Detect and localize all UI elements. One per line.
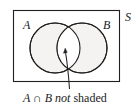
set-b-label: B	[103, 19, 110, 31]
venn-diagram-figure: A B S A ∩ B not shaded	[0, 0, 139, 111]
universal-set-label: S	[125, 11, 131, 23]
caption-italic-text: A ∩ B not	[23, 91, 70, 105]
set-a-label: A	[23, 19, 30, 31]
figure-caption: A ∩ B not shaded	[23, 91, 107, 105]
caption-shaded-word: shaded	[73, 91, 106, 105]
